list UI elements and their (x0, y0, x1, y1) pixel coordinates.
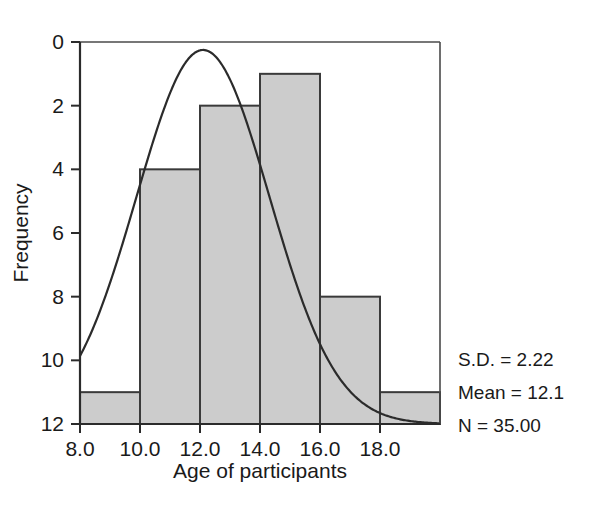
x-axis-tick-label: 10.0 (120, 437, 161, 460)
x-axis-ticks (80, 424, 380, 433)
y-axis-tick-label: 8 (52, 285, 64, 308)
y-axis-tick-label: 10 (41, 348, 64, 371)
y-axis-title: Frequency (9, 183, 32, 283)
x-axis-tick-label: 14.0 (240, 437, 281, 460)
x-axis-tick-label: 12.0 (180, 437, 221, 460)
stat-n: N = 35.00 (458, 415, 541, 436)
histogram-bar (380, 392, 440, 424)
x-axis-tick-labels: 8.010.012.014.016.018.0 (65, 437, 400, 460)
chart-canvas: 121086420 8.010.012.014.016.018.0 Age of… (0, 0, 589, 523)
y-axis-tick-label: 0 (52, 30, 64, 53)
histogram-bar (200, 106, 260, 424)
x-axis-title: Age of participants (173, 459, 347, 482)
x-axis-tick-label: 8.0 (65, 437, 94, 460)
histogram-figure: 121086420 8.010.012.014.016.018.0 Age of… (0, 0, 589, 523)
y-axis-tick-label: 6 (52, 221, 64, 244)
y-axis-tick-label: 2 (52, 94, 64, 117)
histogram-bar (260, 74, 320, 424)
stat-mean: Mean = 12.1 (458, 382, 564, 403)
histogram-bar (140, 169, 200, 424)
y-axis-ticks (71, 42, 80, 424)
x-axis-tick-label: 16.0 (300, 437, 341, 460)
x-axis-tick-label: 18.0 (360, 437, 401, 460)
y-axis-tick-label: 4 (52, 157, 64, 180)
y-axis-tick-label: 12 (41, 412, 64, 435)
histogram-bar (80, 392, 140, 424)
stat-sd: S.D. = 2.22 (458, 349, 554, 370)
y-axis-tick-labels: 121086420 (41, 30, 65, 435)
